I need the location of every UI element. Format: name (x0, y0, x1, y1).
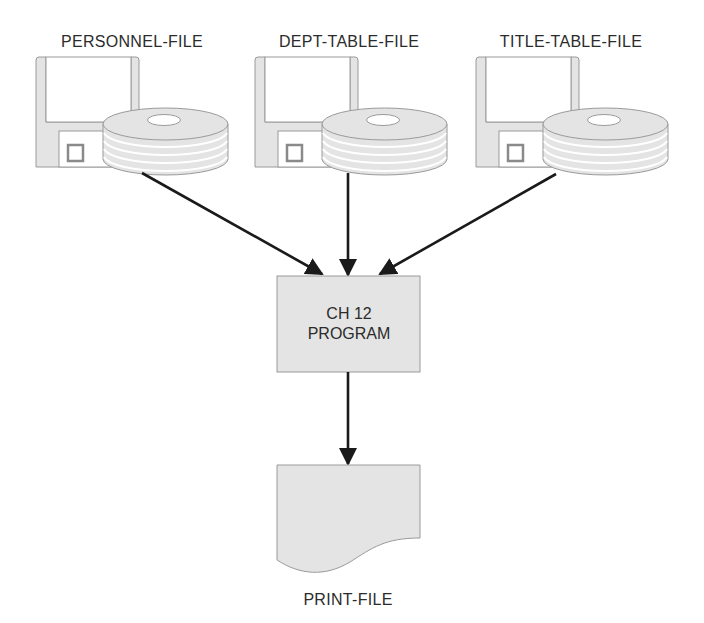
personnel-file-symbol (36, 57, 228, 175)
print-file-label: PRINT-FILE (303, 591, 392, 609)
print-file-document-shape (277, 465, 420, 572)
dept-table-file-label: DEPT-TABLE-FILE (279, 33, 419, 51)
arrow-title-to-program (380, 174, 556, 274)
personnel-file-label: PERSONNEL-FILE (61, 33, 203, 51)
title-table-file-symbol (476, 57, 668, 175)
dept-table-file-symbol (255, 57, 447, 175)
arrow-personnel-to-program (142, 173, 322, 274)
title-table-file-label: TITLE-TABLE-FILE (500, 33, 642, 51)
program-label-line1: CH 12 (326, 304, 371, 323)
program-label-line2: PROGRAM (308, 324, 391, 343)
